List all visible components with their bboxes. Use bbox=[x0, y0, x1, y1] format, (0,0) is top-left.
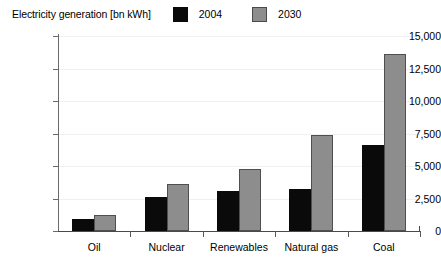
y-axis-tick-mark bbox=[53, 36, 59, 37]
bar-2030-renewables bbox=[239, 169, 261, 231]
bar-2004-natural-gas bbox=[289, 189, 311, 231]
x-axis-tick-mark bbox=[130, 231, 131, 237]
bar-2030-coal bbox=[384, 54, 406, 231]
gridline bbox=[59, 69, 420, 70]
x-axis-category-label: Coal bbox=[348, 241, 420, 253]
x-axis-category-label: Oil bbox=[58, 241, 130, 253]
bar-2004-nuclear bbox=[145, 197, 167, 231]
y-axis-tick-mark bbox=[53, 69, 59, 70]
y-axis-tick-mark bbox=[53, 199, 59, 200]
x-axis-line bbox=[58, 231, 420, 232]
bar-2004-renewables bbox=[217, 191, 239, 231]
y-axis-tick-mark bbox=[53, 134, 59, 135]
y-axis-line bbox=[58, 34, 59, 232]
bar-2004-oil bbox=[72, 219, 94, 231]
bar-2004-coal bbox=[362, 145, 384, 231]
x-axis-category-label: Nuclear bbox=[130, 241, 202, 253]
y-axis-tick-mark bbox=[53, 166, 59, 167]
y-axis-tick-mark bbox=[53, 101, 59, 102]
x-axis-category-label: Natural gas bbox=[275, 241, 347, 253]
gridline bbox=[59, 36, 420, 37]
y-axis-tick-label: 15,000 bbox=[393, 31, 441, 42]
x-axis-tick-mark bbox=[203, 231, 204, 237]
bar-2030-natural-gas bbox=[311, 135, 333, 231]
chart-plot-area: 15,00012,50010,0007,5005,0002,5000 OilNu… bbox=[0, 0, 441, 269]
bar-2030-oil bbox=[94, 215, 116, 231]
x-axis-tick-mark bbox=[420, 231, 421, 237]
gridline bbox=[59, 101, 420, 102]
x-axis-tick-mark bbox=[348, 231, 349, 237]
x-axis-tick-mark bbox=[275, 231, 276, 237]
gridline bbox=[59, 134, 420, 135]
x-axis-category-label: Renewables bbox=[203, 241, 275, 253]
bar-2030-nuclear bbox=[167, 184, 189, 231]
